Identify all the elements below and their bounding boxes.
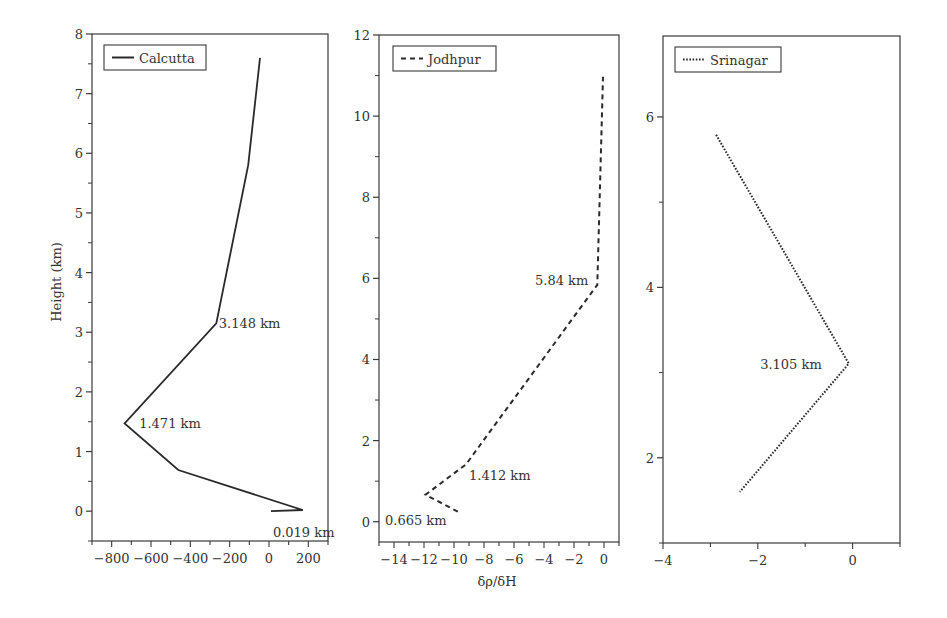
- y-tick-label: 10: [353, 109, 370, 124]
- y-tick-label: 4: [362, 352, 370, 367]
- x-tick-label: 0: [848, 553, 856, 568]
- x-tick-label: −14: [380, 552, 407, 567]
- x-tick-label: −2: [564, 552, 583, 567]
- y-tick-label: 2: [646, 451, 654, 466]
- y-tick-label: 8: [362, 190, 370, 205]
- legend-label: Jodhpur: [426, 52, 481, 67]
- point-annotation: 1.471 km: [139, 416, 201, 431]
- y-tick-label: 2: [75, 385, 83, 400]
- x-tick-label: −2: [748, 553, 767, 568]
- point-annotation: 5.84 km: [535, 273, 588, 288]
- y-tick-label: 0: [75, 504, 83, 519]
- y-tick-label: 3: [75, 325, 83, 340]
- x-tick-label: −200: [212, 551, 248, 566]
- x-tick-label: 0: [600, 552, 608, 567]
- y-tick-label: 2: [362, 434, 370, 449]
- x-tick-label: 200: [296, 551, 321, 566]
- panel-srinagar: 246−4−203.105 kmSrinagar: [646, 36, 900, 568]
- legend-label: Srinagar: [710, 53, 768, 68]
- legend: Calcutta: [104, 45, 206, 70]
- point-annotation: 0.665 km: [385, 513, 447, 528]
- data-line-calcutta: [125, 58, 303, 511]
- panel-jodhpur: 024681012−14−12−10−8−6−4−200.665 km1.412…: [353, 28, 619, 567]
- x-tick-label: −8: [474, 552, 493, 567]
- y-axis-title: Height (km): [49, 242, 64, 322]
- data-line-srinagar: [716, 135, 849, 492]
- y-tick-label: 0: [362, 515, 370, 530]
- y-tick-label: 6: [362, 271, 370, 286]
- y-tick-label: 7: [75, 87, 83, 102]
- point-annotation: 0.019 km: [273, 525, 335, 540]
- y-tick-label: 4: [75, 266, 83, 281]
- y-tick-label: 1: [75, 445, 83, 460]
- figure: Height (km) δρ/δH 012345678−800−600−400−…: [0, 0, 947, 618]
- y-tick-label: 4: [646, 280, 654, 295]
- point-annotation: 3.105 km: [760, 357, 822, 372]
- y-tick-label: 8: [75, 27, 83, 42]
- plot-frame: [92, 34, 328, 541]
- legend: Srinagar: [675, 47, 781, 72]
- y-tick-label: 6: [75, 146, 83, 161]
- data-line-jodhpur: [426, 77, 604, 512]
- y-tick-label: 6: [646, 110, 654, 125]
- x-tick-label: −4: [534, 552, 553, 567]
- plot-frame: [663, 36, 900, 543]
- y-tick-label: 12: [353, 28, 370, 43]
- x-axis-title: δρ/δH: [477, 574, 516, 589]
- x-tick-label: 0: [265, 551, 273, 566]
- legend: Jodhpur: [393, 46, 496, 71]
- x-tick-label: −400: [172, 551, 208, 566]
- point-annotation: 1.412 km: [469, 468, 531, 483]
- x-tick-label: −10: [440, 552, 467, 567]
- x-tick-label: −800: [94, 551, 130, 566]
- plot-frame: [379, 35, 619, 542]
- y-tick-label: 5: [75, 206, 83, 221]
- panel-calcutta: 012345678−800−600−400−20002000.019 km1.4…: [75, 27, 335, 566]
- point-annotation: 3.148 km: [219, 316, 281, 331]
- x-tick-label: −600: [133, 551, 169, 566]
- x-tick-label: −4: [653, 553, 672, 568]
- legend-label: Calcutta: [139, 51, 195, 66]
- x-tick-label: −12: [410, 552, 437, 567]
- x-tick-label: −6: [504, 552, 523, 567]
